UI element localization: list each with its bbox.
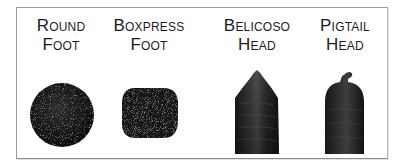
label-belicoso-head-line2: Head bbox=[212, 35, 302, 54]
belicoso-head-image bbox=[232, 68, 282, 156]
boxpress-foot-image bbox=[120, 86, 180, 140]
label-boxpress-foot-line2: Foot bbox=[104, 35, 194, 54]
label-boxpress-foot: Boxpress Foot bbox=[104, 16, 194, 54]
label-round-foot: Round Foot bbox=[20, 16, 102, 54]
pigtail-head-image bbox=[322, 70, 368, 156]
label-round-foot-line2: Foot bbox=[20, 35, 102, 54]
label-round-foot-line1: Round bbox=[20, 16, 102, 35]
label-belicoso-head: Belicoso Head bbox=[212, 16, 302, 54]
label-belicoso-head-line1: Belicoso bbox=[212, 16, 302, 35]
label-boxpress-foot-line1: Boxpress bbox=[104, 16, 194, 35]
label-pigtail-head-line2: Head bbox=[308, 35, 382, 54]
label-pigtail-head: Pigtail Head bbox=[308, 16, 382, 54]
round-foot-image bbox=[28, 82, 96, 150]
label-pigtail-head-line1: Pigtail bbox=[308, 16, 382, 35]
